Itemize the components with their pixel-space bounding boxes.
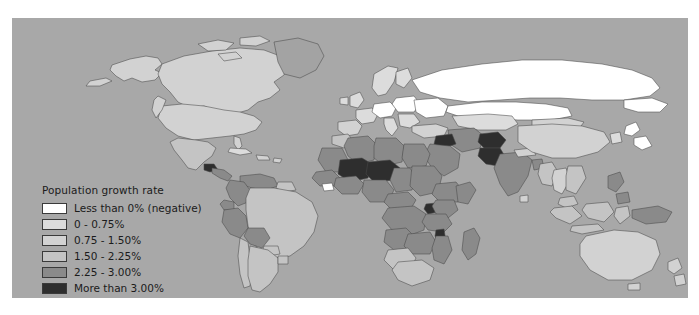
legend-label-0-075: 0 - 0.75% bbox=[74, 218, 125, 230]
legend-title: Population growth rate bbox=[42, 184, 242, 196]
legend-label-075-150: 0.75 - 1.50% bbox=[74, 234, 141, 246]
legend-item-150-225: 1.50 - 2.25% bbox=[42, 248, 242, 264]
population-growth-map-page: .land { stroke: #4a4a4a; stroke-width: 0… bbox=[0, 0, 699, 315]
legend-item-negative: Less than 0% (negative) bbox=[42, 200, 242, 216]
legend-item-075-150: 0.75 - 1.50% bbox=[42, 232, 242, 248]
legend-label-150-225: 1.50 - 2.25% bbox=[74, 250, 141, 262]
legend-item-0-075: 0 - 0.75% bbox=[42, 216, 242, 232]
legend-label-225-300: 2.25 - 3.00% bbox=[74, 266, 141, 278]
legend-swatch-225-300 bbox=[42, 267, 67, 278]
legend-swatch-075-150 bbox=[42, 235, 67, 246]
legend-swatch-150-225 bbox=[42, 251, 67, 262]
map-legend: Population growth rate Less than 0% (neg… bbox=[32, 184, 242, 296]
world-choropleth-map: .land { stroke: #4a4a4a; stroke-width: 0… bbox=[12, 18, 688, 298]
legend-swatch-more-300 bbox=[42, 283, 67, 294]
legend-swatch-negative bbox=[42, 203, 67, 214]
legend-label-more-300: More than 3.00% bbox=[74, 282, 164, 294]
legend-item-225-300: 2.25 - 3.00% bbox=[42, 264, 242, 280]
legend-item-more-300: More than 3.00% bbox=[42, 280, 242, 296]
legend-swatch-0-075 bbox=[42, 219, 67, 230]
legend-label-negative: Less than 0% (negative) bbox=[74, 202, 202, 214]
